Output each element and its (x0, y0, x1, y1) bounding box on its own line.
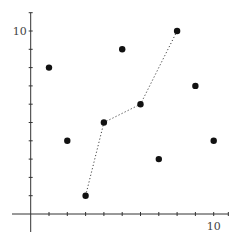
data-points (46, 28, 217, 199)
data-point (174, 28, 180, 34)
data-point (101, 119, 107, 125)
data-point (192, 83, 198, 89)
data-point (82, 193, 88, 199)
data-point (137, 101, 143, 107)
data-point (119, 46, 125, 52)
axes (12, 13, 228, 232)
data-point (156, 156, 162, 162)
y-tick-label: 10 (13, 25, 27, 38)
tick-labels: 1010 (13, 25, 221, 233)
data-point (46, 64, 52, 70)
data-point (64, 138, 70, 144)
scatter-chart: 1010 (0, 0, 240, 242)
dotted-path (86, 31, 178, 196)
data-point (211, 138, 217, 144)
x-tick-label: 10 (207, 220, 221, 233)
ticks (29, 13, 229, 216)
dotted-line (86, 31, 178, 196)
